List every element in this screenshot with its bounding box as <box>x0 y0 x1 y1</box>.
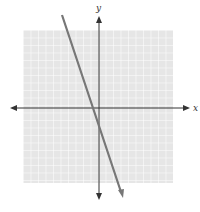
grid <box>23 30 173 183</box>
x-axis-label: x <box>193 103 198 113</box>
y-axis-down-arrow-icon <box>96 193 102 200</box>
x-axis-right-arrow-icon <box>183 105 190 111</box>
y-axis-label: y <box>95 3 102 13</box>
x-axis-left-arrow-icon <box>10 105 17 111</box>
y-axis-up-arrow-icon <box>96 16 102 23</box>
coordinate-plane: x y <box>0 0 200 212</box>
line-arrow-icon <box>118 189 124 198</box>
